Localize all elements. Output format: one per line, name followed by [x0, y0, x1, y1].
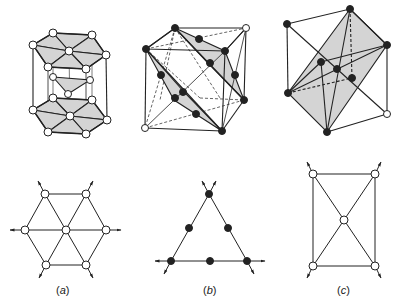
panel-label-a: (a)	[56, 284, 69, 296]
crystal-structure-figure	[0, 0, 405, 308]
panel-c-2d-atoms	[309, 170, 379, 270]
panel-label-c: (c)	[337, 284, 350, 296]
panel-label-b: (b)	[203, 284, 216, 296]
panel-b-2d-atoms	[168, 191, 251, 265]
